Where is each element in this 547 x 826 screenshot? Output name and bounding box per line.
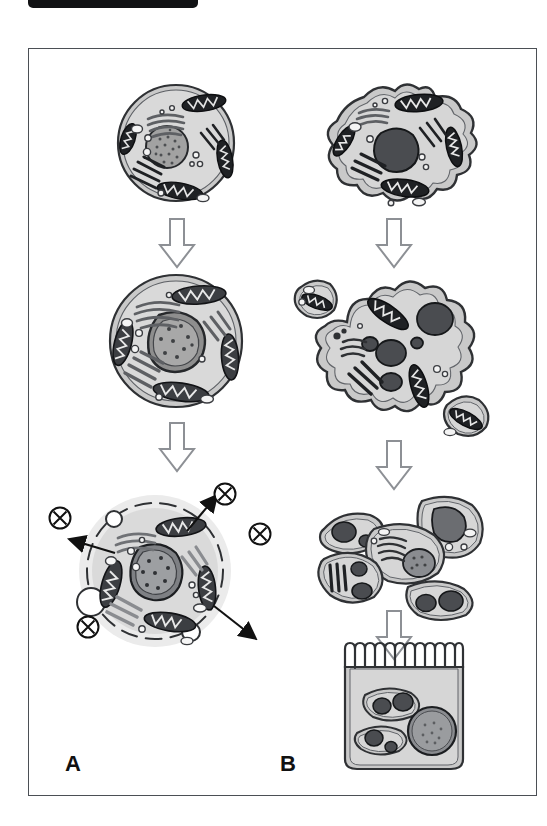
secreted-product-symbol: [212, 481, 238, 507]
cell-a2-round-activated: [99, 271, 254, 411]
cell-a1-round-resting: [104, 81, 249, 206]
cell-b3-daughter-cluster: [304, 491, 504, 621]
block-arrow-a-2: [157, 421, 197, 473]
figure-frame: A B: [28, 48, 537, 796]
block-arrow-b-2: [374, 439, 414, 491]
block-arrow-a-1: [157, 217, 197, 269]
secreted-product-symbol: [47, 505, 73, 531]
panel-label-b: B: [280, 753, 296, 775]
cell-b4-epithelial-with-engulfed: [329, 641, 479, 776]
secreted-product-symbol: [75, 614, 101, 640]
top-crop-bar: [28, 0, 198, 8]
block-arrow-b-1: [374, 217, 414, 269]
panel-label-a: A: [65, 753, 81, 775]
secreted-product-symbol: [247, 521, 273, 547]
cell-b1-amoeboid: [309, 75, 484, 215]
cell-b2-amoeboid-multinucleate: [287, 264, 502, 439]
